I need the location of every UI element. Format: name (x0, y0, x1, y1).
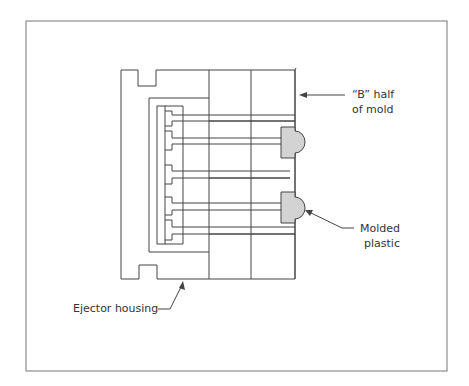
ejector-pins (165, 111, 295, 240)
molded-part-upper (281, 127, 305, 158)
mold-diagram (0, 0, 469, 386)
b-half-of-mold (209, 68, 296, 279)
molded-leader (309, 212, 342, 228)
label-molded-line2: plastic (364, 236, 400, 251)
label-b-half-line1: “B” half (352, 87, 394, 102)
figure-frame (26, 21, 447, 371)
molded-plastic-parts (281, 127, 305, 223)
label-ejector-housing: Ejector housing (73, 301, 158, 316)
label-b-half-line2: of mold (352, 102, 394, 117)
ejector-housing (121, 70, 295, 279)
ejector-leader (170, 285, 182, 309)
ejector-plate (157, 106, 183, 244)
arrowhead-icon (299, 92, 307, 98)
leader-lines (158, 92, 354, 309)
label-molded-line1: Molded (360, 221, 400, 236)
molded-part-lower (281, 192, 305, 223)
